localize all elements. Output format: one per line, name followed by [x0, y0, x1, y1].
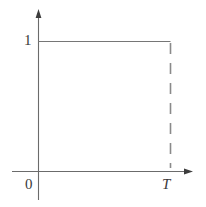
x-axis-arrowhead [184, 169, 193, 175]
y-axis-tick-label-one: 1 [24, 33, 32, 48]
y-axis-arrowhead [36, 9, 42, 18]
origin-label-zero: 0 [25, 177, 33, 192]
figure-container: 1 0 T [0, 0, 206, 207]
x-axis-label-T: T [162, 177, 170, 192]
